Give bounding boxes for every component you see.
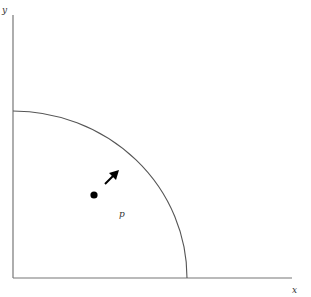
diagram-canvas: y x p xyxy=(0,0,311,297)
x-axis-label: x xyxy=(292,285,297,295)
direction-arrow-icon xyxy=(105,170,119,184)
point-dot xyxy=(90,191,97,198)
y-axis-label: y xyxy=(1,5,8,15)
quarter-circle-arc xyxy=(13,111,187,278)
point-label: p xyxy=(119,209,125,219)
